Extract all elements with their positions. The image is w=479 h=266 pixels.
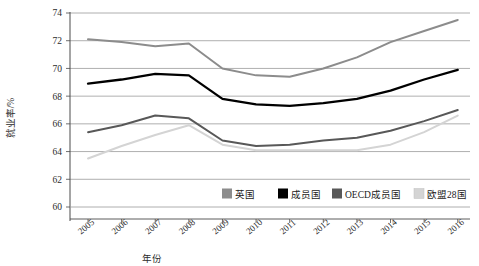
x-axis-tick-label: 2005 <box>76 217 97 237</box>
x-axis-tick-label-group: 2007 <box>143 217 164 237</box>
x-axis-tick-label-group: 2010 <box>244 217 265 237</box>
x-axis-tick-label: 2013 <box>345 217 366 237</box>
y-axis-tick-label: 74 <box>53 8 63 18</box>
y-axis-title: 就业率/% <box>5 98 16 139</box>
x-axis-tick-label-group: 2014 <box>378 217 399 237</box>
x-axis-tick-label-group: 2015 <box>412 217 433 237</box>
x-axis-tick-label: 2006 <box>110 217 131 237</box>
y-axis-tick-label: 66 <box>53 119 63 129</box>
legend-label-2: OECD成员国 <box>345 189 401 200</box>
legend-swatch-0 <box>222 189 232 199</box>
x-axis-tick-label: 2014 <box>378 217 399 237</box>
x-axis-tick-label-group: 2016 <box>446 217 467 237</box>
x-axis-tick-label: 2008 <box>177 217 198 237</box>
employment-rate-line-chart: 6062646668707274200520062007200820092010… <box>0 0 479 266</box>
legend-label-0: 英国 <box>235 189 255 200</box>
x-axis-tick-label-group: 2005 <box>76 217 97 237</box>
legend-label-1: 成员国 <box>291 189 321 200</box>
legend-swatch-1 <box>278 189 288 199</box>
x-axis-tick-label: 2015 <box>412 217 433 237</box>
x-axis-tick-label: 2007 <box>143 217 164 237</box>
x-axis-tick-label-group: 2011 <box>278 217 298 236</box>
x-axis-tick-label-group: 2012 <box>311 217 331 236</box>
x-axis-tick-label: 2011 <box>278 217 298 236</box>
y-axis-tick-label: 70 <box>53 64 63 74</box>
x-axis-tick-label: 2016 <box>446 217 467 237</box>
y-axis-tick-label: 62 <box>53 175 63 185</box>
legend-label-3: 欧盟28国 <box>427 189 467 200</box>
x-axis-tick-label-group: 2009 <box>210 217 231 237</box>
y-axis-tick-label: 60 <box>53 202 63 212</box>
x-axis-tick-label-group: 2013 <box>345 217 366 237</box>
legend-swatch-2 <box>332 189 342 199</box>
x-axis-tick-label-group: 2008 <box>177 217 198 237</box>
y-axis-tick-label: 72 <box>53 36 63 46</box>
legend-swatch-3 <box>414 189 424 199</box>
plot-area <box>70 13 470 207</box>
x-axis-tick-label: 2009 <box>210 217 231 237</box>
x-axis-tick-label: 2010 <box>244 217 265 237</box>
y-axis-tick-label: 64 <box>53 147 63 157</box>
x-axis-title: 年份 <box>142 253 162 264</box>
x-axis-tick-label-group: 2006 <box>110 217 131 237</box>
chart-canvas: 6062646668707274200520062007200820092010… <box>0 0 479 266</box>
x-axis-tick-label: 2012 <box>311 217 331 236</box>
y-axis-title-group: 就业率/% <box>5 98 16 139</box>
y-axis-tick-label: 68 <box>53 92 63 102</box>
